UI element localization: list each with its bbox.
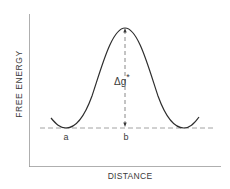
point-a-label: a — [63, 132, 68, 142]
point-b-label: b — [123, 132, 128, 142]
free-energy-diagram: Δg* a b FREE ENERGY DISTANCE — [0, 0, 230, 189]
barrier-label: Δg* — [114, 72, 130, 87]
barrier-label-main: Δg — [114, 76, 126, 87]
barrier-label-sup: * — [126, 72, 130, 82]
y-axis-label: FREE ENERGY — [14, 50, 24, 118]
x-axis-label: DISTANCE — [108, 171, 153, 181]
arrowhead-bottom-icon — [123, 123, 126, 128]
